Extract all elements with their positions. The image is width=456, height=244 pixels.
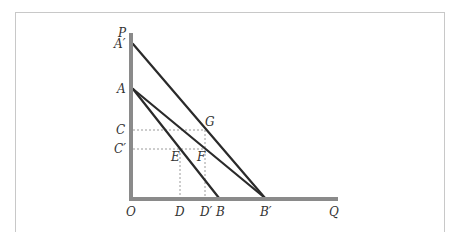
line-a-prime-b-prime [133, 44, 265, 198]
label-d-prime: D′ [199, 205, 213, 219]
curves [133, 44, 265, 198]
label-b-prime: B′ [259, 205, 272, 219]
label-a-prime: A′ [113, 37, 126, 51]
label-c-prime: C′ [114, 142, 126, 156]
label-e: E [170, 150, 180, 164]
supply-demand-diagram: P A′ A C C′ G F E O D D′ B B′ Q [0, 0, 456, 244]
label-f: F [196, 150, 206, 164]
label-c: C [116, 123, 125, 137]
label-b: B [215, 205, 225, 219]
axis-label-q: Q [329, 205, 339, 219]
line-a-b [133, 89, 219, 198]
label-g: G [205, 115, 215, 129]
label-a: A [116, 82, 126, 96]
axes [129, 33, 338, 201]
label-origin-o: O [126, 205, 136, 219]
line-a-b-prime [133, 89, 265, 198]
label-d: D [174, 205, 185, 219]
